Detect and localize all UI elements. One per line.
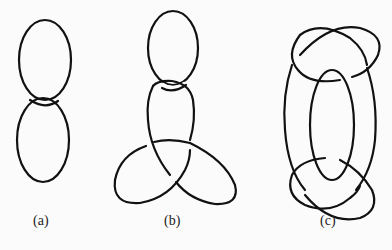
panel-b-label: (b): [164, 213, 180, 229]
panel-c-link: [284, 27, 379, 219]
panel-a-label: (a): [33, 213, 49, 229]
panel-c-label: (c): [320, 213, 336, 229]
panel-a-link: [17, 20, 71, 182]
panel-b-link: [115, 11, 236, 204]
